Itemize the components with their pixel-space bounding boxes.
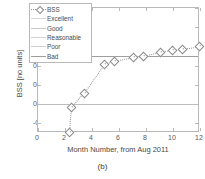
legend-solid-line	[31, 28, 46, 29]
legend-item-poor[interactable]: Poor	[30, 42, 91, 51]
legend-item-label: Poor	[47, 42, 61, 51]
legend-solid-line	[31, 56, 46, 57]
legend-item-label: Bad	[47, 52, 58, 61]
x-tick-label: 12	[195, 134, 203, 141]
x-tick-label: 2	[62, 134, 66, 141]
legend-item-label: BSS	[47, 5, 60, 14]
data-point-marker	[167, 45, 177, 55]
legend-item-label: Reasonable	[47, 33, 81, 42]
legend-solid-line	[31, 46, 46, 47]
legend-swatch	[31, 24, 46, 33]
data-point-marker	[155, 48, 165, 58]
legend-item-excellent[interactable]: Excellent	[30, 14, 91, 23]
diamond-marker-icon	[36, 6, 44, 14]
data-point-marker	[128, 53, 138, 63]
figure-panel-b: BSS [no units] 1 0.8 0.6 0.4 0.2 0 -0.2 …	[0, 0, 205, 179]
x-axis-tick	[200, 8, 201, 11]
legend-swatch	[31, 5, 46, 14]
legend-swatch	[31, 42, 46, 51]
data-point-marker	[65, 128, 75, 138]
legend-item-reasonable[interactable]: Reasonable	[30, 33, 91, 42]
x-tick-label: 8	[143, 134, 147, 141]
legend-swatch	[31, 52, 46, 61]
legend-item-bss[interactable]: BSS	[30, 5, 91, 14]
data-point-marker	[139, 52, 149, 62]
legend: BSSExcellentGoodReasonablePoorBad	[29, 3, 92, 63]
legend-solid-line	[31, 37, 46, 38]
legend-solid-line	[31, 18, 46, 19]
x-tick-label: 0	[35, 134, 39, 141]
x-tick-label: 6	[116, 134, 120, 141]
legend-item-label: Excellent	[47, 14, 73, 23]
data-point-marker	[109, 56, 119, 66]
x-tick-label: 4	[89, 134, 93, 141]
figure-caption: (b)	[0, 162, 205, 171]
data-point-marker	[194, 42, 204, 52]
data-point-marker	[178, 44, 188, 54]
legend-item-label: Good	[47, 24, 63, 33]
y-axis-label: BSS [no units]	[15, 19, 24, 129]
x-tick-label: 10	[168, 134, 176, 141]
data-point-marker	[67, 103, 77, 113]
legend-item-good[interactable]: Good	[30, 24, 91, 33]
legend-swatch	[31, 33, 46, 42]
legend-item-bad[interactable]: Bad	[30, 51, 91, 60]
series-segment	[84, 64, 105, 93]
x-axis-tick	[200, 128, 201, 131]
x-axis-label: Month Number, from Aug 2011	[37, 145, 199, 154]
legend-swatch	[31, 14, 46, 23]
